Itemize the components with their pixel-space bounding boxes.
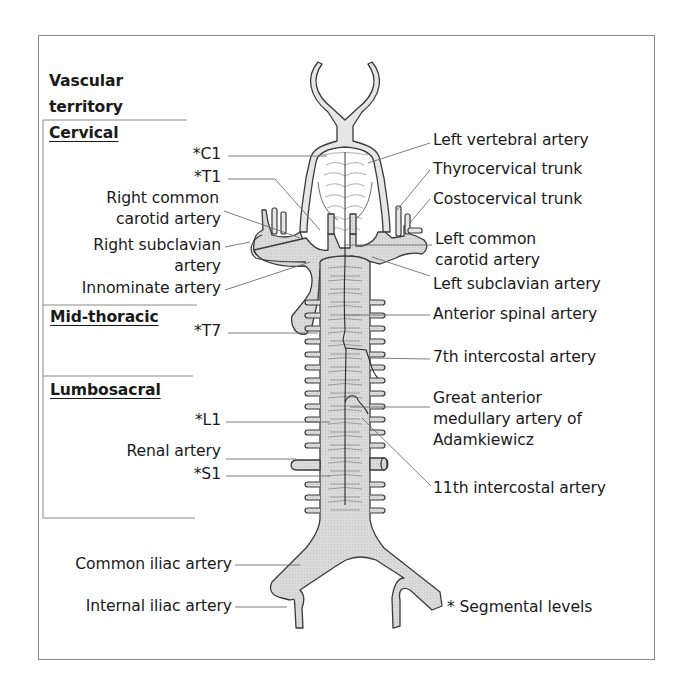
label-common-iliac: Common iliac artery (75, 555, 232, 573)
left-common-carotid-stub (350, 214, 356, 234)
segmental-artery-right (370, 313, 385, 318)
segmental-artery-right (370, 326, 385, 331)
label-right-common-carotid-1: Right common (106, 189, 219, 207)
segmental-artery-left (305, 365, 320, 370)
segmental-artery-right (370, 339, 385, 344)
segmental-artery-right (370, 417, 385, 422)
label-thyrocervical: Thyrocervical trunk (433, 160, 582, 178)
label-left-subclavian: Left subclavian artery (433, 275, 601, 293)
segmental-artery-left (305, 508, 320, 513)
segmental-artery-left (305, 339, 320, 344)
segmental-artery-right (370, 495, 385, 500)
right-costocervical-branch (281, 212, 286, 234)
segmental-artery-left (305, 482, 320, 487)
left-renal-artery-end (381, 458, 387, 470)
label-costocervical: Costocervical trunk (433, 190, 582, 208)
segmental-artery-right (370, 430, 385, 435)
label-internal-iliac: Internal iliac artery (86, 597, 232, 615)
segmental-artery-right (370, 404, 385, 409)
segmental-artery-right (370, 300, 385, 305)
heading-line-1: Vascular (49, 72, 123, 90)
label-renal: Renal artery (126, 442, 221, 460)
label-7th-intercostal: 7th intercostal artery (433, 348, 596, 366)
left-costocervical-twig (408, 228, 422, 233)
label-adamkiewicz-3: Adamkiewicz (433, 431, 534, 449)
segmental-artery-left (305, 352, 320, 357)
right-thyrocervical-branch (272, 208, 277, 234)
segmental-artery-right (370, 508, 385, 513)
label-adamkiewicz-2: medullary artery of (433, 410, 582, 428)
label-right-common-carotid-2: carotid artery (116, 210, 221, 228)
label-left-common-carotid-1: Left common (435, 230, 536, 248)
territory-midthoracic: Mid-thoracic (50, 308, 159, 326)
label-left-vertebral: Left vertebral artery (433, 131, 589, 149)
label-l1: *L1 (195, 411, 221, 429)
segmental-artery-left (305, 300, 320, 305)
segmental-artery-left (305, 495, 320, 500)
segmental-artery-left (305, 404, 320, 409)
segmental-artery-left (305, 313, 320, 318)
segmental-artery-left (305, 443, 320, 448)
label-c1: *C1 (193, 145, 221, 163)
heading-line-2: territory (49, 98, 123, 116)
label-left-common-carotid-2: carotid artery (435, 251, 540, 269)
label-right-subclavian-1: Right subclavian (93, 236, 221, 254)
brachiocephalic-stub (328, 214, 334, 234)
segmental-artery-right (370, 482, 385, 487)
label-t7: *T7 (194, 322, 221, 340)
segmental-artery-left (305, 378, 320, 383)
label-right-subclavian-2: artery (174, 257, 221, 275)
territory-cervical: Cervical (49, 124, 119, 142)
segmental-artery-left (305, 417, 320, 422)
territory-lumbosacral: Lumbosacral (50, 381, 161, 399)
label-adamkiewicz-1: Great anterior (433, 389, 542, 407)
label-t1: *T1 (194, 168, 221, 186)
right-renal-artery (291, 460, 320, 470)
left-thyrocervical-branch (396, 206, 401, 236)
label-11th-intercostal: 11th intercostal artery (433, 479, 606, 497)
footnote-segmental-levels: * Segmental levels (447, 598, 592, 616)
label-innominate: Innominate artery (82, 279, 221, 297)
segmental-artery-left (305, 391, 320, 396)
label-anterior-spinal: Anterior spinal artery (433, 305, 597, 323)
segmental-artery-right (370, 352, 385, 357)
segmental-artery-left (305, 326, 320, 331)
segmental-artery-right (370, 391, 385, 396)
segmental-artery-left (305, 430, 320, 435)
segmental-artery-right (370, 378, 385, 383)
label-s1: *S1 (194, 465, 221, 483)
segmental-artery-right (370, 443, 385, 448)
